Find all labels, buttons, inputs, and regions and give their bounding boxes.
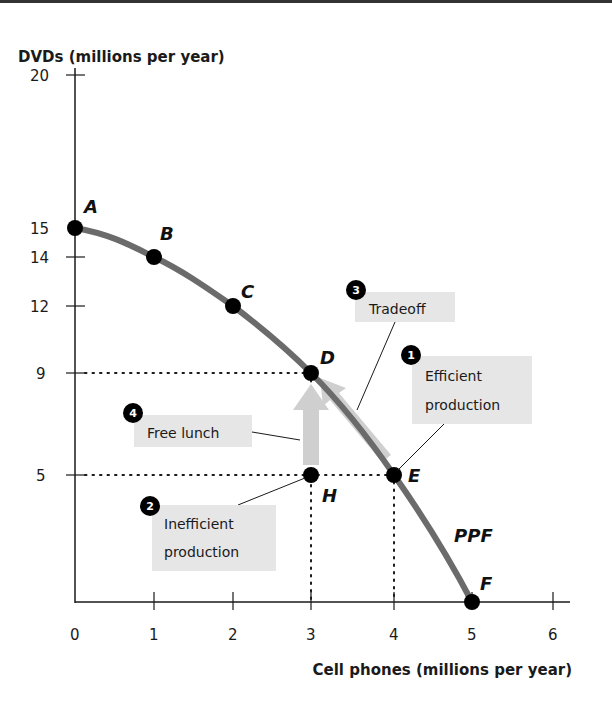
- x-tick-6: 6: [548, 626, 558, 644]
- x-tick-3: 3: [306, 626, 316, 644]
- badge-1: 1: [407, 349, 415, 362]
- point-h: [303, 467, 319, 483]
- y-tick-15: 15: [30, 220, 49, 238]
- label-d: D: [320, 347, 335, 368]
- note-tradeoff-text: Tradeoff: [368, 301, 426, 317]
- point-c: [225, 298, 241, 314]
- y-tick-14: 14: [30, 249, 49, 267]
- point-f: [464, 594, 480, 610]
- label-f: F: [480, 573, 493, 594]
- label-ppf: PPF: [454, 525, 493, 546]
- y-tick-5: 5: [36, 467, 46, 485]
- y-tick-12: 12: [30, 298, 49, 316]
- note-efficient-box: [412, 356, 532, 424]
- note-inefficient-line2: production: [164, 544, 239, 560]
- x-tick-4: 4: [389, 626, 399, 644]
- label-e: E: [408, 465, 421, 486]
- badge-3: 3: [352, 284, 360, 297]
- badge-4: 4: [129, 407, 137, 420]
- x-tick-0: 0: [70, 626, 80, 644]
- point-e: [386, 467, 402, 483]
- badge-2: 2: [146, 500, 154, 513]
- x-axis-title: Cell phones (millions per year): [313, 661, 572, 679]
- ppf-chart: DVDs (millions per year) 20 15 14 12 9 5…: [0, 0, 612, 721]
- note-inefficient-line1: Inefficient: [164, 516, 234, 532]
- label-h: H: [322, 485, 337, 506]
- note-efficient-line1: Efficient: [425, 368, 482, 384]
- x-tick-5: 5: [467, 626, 477, 644]
- note-free-lunch-text: Free lunch: [147, 425, 219, 441]
- y-axis-title: DVDs (millions per year): [18, 48, 225, 66]
- y-tick-9: 9: [36, 365, 46, 383]
- label-b: B: [160, 223, 174, 244]
- y-tick-20: 20: [30, 67, 49, 85]
- note-inefficient-box: [152, 505, 276, 571]
- x-tick-1: 1: [149, 626, 159, 644]
- label-c: C: [241, 281, 255, 302]
- label-a: A: [82, 196, 98, 217]
- point-d: [303, 365, 319, 381]
- point-b: [146, 249, 162, 265]
- note-efficient-line2: production: [425, 397, 500, 413]
- x-tick-2: 2: [228, 626, 238, 644]
- x-ticks: [154, 592, 553, 610]
- point-a: [67, 220, 83, 236]
